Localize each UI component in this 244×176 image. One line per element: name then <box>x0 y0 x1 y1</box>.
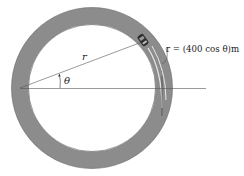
circular-track <box>12 8 173 169</box>
label-equation: r = (400 cos θ)m <box>166 44 239 54</box>
label-r: r <box>82 51 88 62</box>
diagram-canvas: r θ r = (400 cos θ)m <box>0 0 244 176</box>
theta-arrowhead-icon <box>58 74 61 76</box>
label-theta: θ <box>64 75 70 86</box>
